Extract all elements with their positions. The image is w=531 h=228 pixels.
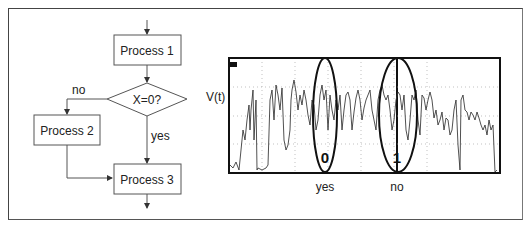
decision-label: X=0? bbox=[133, 93, 162, 107]
process2-label: Process 2 bbox=[40, 124, 94, 138]
caption-no: no bbox=[390, 180, 404, 194]
arrow-no-branch bbox=[67, 99, 107, 114]
channel-marker-icon bbox=[230, 62, 237, 67]
bit-0-label: 0 bbox=[321, 149, 329, 166]
no-branch-label: no bbox=[72, 83, 86, 97]
arrow-process2-to-process3 bbox=[67, 145, 112, 178]
figure-canvas: Process 1 X=0? no yes Process 2 Process … bbox=[0, 0, 531, 228]
caption-yes: yes bbox=[316, 180, 335, 194]
bit-1-label: 1 bbox=[393, 149, 401, 166]
yes-branch-label: yes bbox=[151, 129, 170, 143]
vt-axis-label: V(t) bbox=[206, 90, 225, 104]
process3-label: Process 3 bbox=[120, 173, 174, 187]
process1-label: Process 1 bbox=[120, 44, 174, 58]
